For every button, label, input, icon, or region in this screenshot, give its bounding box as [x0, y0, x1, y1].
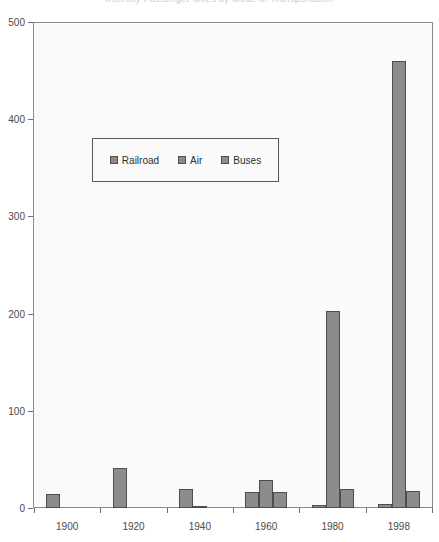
y-tick-label: 100: [8, 405, 25, 416]
x-tick-label: 1980: [321, 521, 343, 532]
legend-label: Buses: [233, 155, 261, 166]
bar: [46, 494, 60, 508]
x-tick-label: 1920: [122, 521, 144, 532]
x-tick-label: 1960: [255, 521, 277, 532]
bar: [179, 489, 193, 508]
bar: [392, 61, 406, 508]
y-tick-label: 300: [8, 211, 25, 222]
legend-entry: Buses: [221, 155, 261, 166]
x-tick-mark: [299, 508, 300, 513]
legend: RailroadAirBuses: [92, 138, 279, 182]
legend-label: Air: [190, 155, 202, 166]
bar: [273, 492, 287, 508]
y-tick-mark: [28, 314, 33, 315]
x-tick-label: 1900: [56, 521, 78, 532]
bar: [340, 489, 354, 508]
chart-title: Intercity Passenger Miles by Mode of Tra…: [0, 0, 439, 5]
x-tick-label: 1998: [388, 521, 410, 532]
x-tick-mark: [432, 508, 433, 513]
x-tick-mark: [34, 508, 35, 513]
x-tick-mark: [167, 508, 168, 513]
x-tick-label: 1940: [189, 521, 211, 532]
x-tick-mark: [366, 508, 367, 513]
legend-swatch-icon: [221, 156, 229, 164]
y-tick-label: 500: [8, 17, 25, 28]
legend-swatch-icon: [178, 156, 186, 164]
y-tick-mark: [28, 411, 33, 412]
bar: [406, 491, 420, 508]
y-tick-mark: [28, 119, 33, 120]
bar: [245, 492, 259, 508]
y-tick-mark: [28, 22, 33, 23]
bar: [259, 480, 273, 508]
legend-entry: Air: [178, 155, 202, 166]
bar: [113, 468, 127, 508]
y-axis: 0100200300400500: [0, 0, 33, 542]
y-tick-mark: [28, 216, 33, 217]
legend-entry: Railroad: [110, 155, 159, 166]
y-tick-label: 0: [19, 503, 25, 514]
y-tick-label: 400: [8, 114, 25, 125]
bars-layer: [34, 23, 432, 508]
bar: [326, 311, 340, 508]
y-tick-label: 200: [8, 308, 25, 319]
x-tick-mark: [100, 508, 101, 513]
bar-chart: Intercity Passenger Miles by Mode of Tra…: [0, 0, 439, 542]
legend-swatch-icon: [110, 156, 118, 164]
legend-label: Railroad: [122, 155, 159, 166]
x-tick-mark: [233, 508, 234, 513]
x-axis: 190019201940196019801998: [33, 508, 433, 542]
